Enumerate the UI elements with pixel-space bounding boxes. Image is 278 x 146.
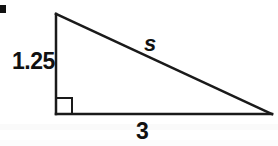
horizontal-leg-label: 3	[136, 120, 149, 143]
hypotenuse-label: s	[144, 33, 156, 55]
hypotenuse-line	[56, 14, 272, 114]
right-angle-marker-icon	[56, 98, 72, 114]
vertical-leg-label: 1.25	[12, 50, 55, 73]
right-triangle-figure: 1.25 s 3	[0, 0, 278, 146]
